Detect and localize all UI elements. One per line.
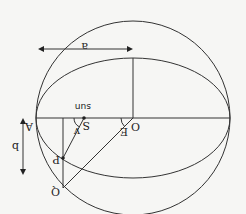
label-o: O (131, 120, 140, 133)
label-a: A (24, 120, 34, 133)
orbit-diagram: O A S sun P Q a b v E (0, 0, 246, 214)
label-q: Q (51, 185, 60, 198)
label-p: P (52, 153, 60, 166)
p-dot (61, 156, 65, 160)
arrowhead-icon (127, 46, 133, 52)
arrowhead-icon (38, 46, 44, 52)
label-e: E (120, 125, 128, 138)
arrowhead-icon (20, 169, 26, 175)
label-v: v (73, 125, 81, 138)
label-s: S (82, 119, 90, 132)
label-a-semi-major: a (81, 40, 88, 53)
label-b-semi-minor: b (12, 140, 19, 153)
label-sun: sun (75, 102, 91, 112)
